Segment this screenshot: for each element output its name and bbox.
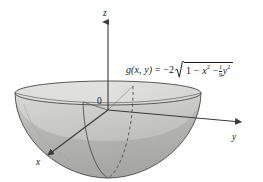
function-formula: g(x, y) = −2 1 − x2 −19y2 xyxy=(126,61,233,80)
radicand-y-exponent: 2 xyxy=(227,64,230,71)
radicand-fraction: 19 xyxy=(219,64,222,79)
radicand-x-exponent: 2 xyxy=(207,64,210,71)
formula-radical-group: 1 − x2 −19y2 xyxy=(174,61,233,80)
radicand-minus-1: − xyxy=(194,65,200,76)
fraction-numerator: 1 xyxy=(219,64,222,71)
radicand-minus-2: − xyxy=(213,65,219,76)
radical-icon xyxy=(175,61,184,80)
radicand-one: 1 xyxy=(186,65,191,76)
formula-equals: = xyxy=(155,64,161,75)
formula-coefficient: −2 xyxy=(163,64,174,75)
radical-glyph xyxy=(175,61,184,78)
x-axis-label: x xyxy=(36,157,40,167)
surface-plot-figure: z y x 0 g(x, y) = −2 1 − x2 −19y2 xyxy=(0,0,263,182)
figure-canvas xyxy=(0,0,263,182)
y-axis-label: y xyxy=(232,132,236,142)
origin-label: 0 xyxy=(97,96,102,106)
fraction-denominator: 9 xyxy=(219,71,222,79)
formula-arguments: (x, y) xyxy=(131,64,152,75)
formula-radicand: 1 − x2 −19y2 xyxy=(184,62,233,79)
z-axis-label: z xyxy=(103,8,107,18)
